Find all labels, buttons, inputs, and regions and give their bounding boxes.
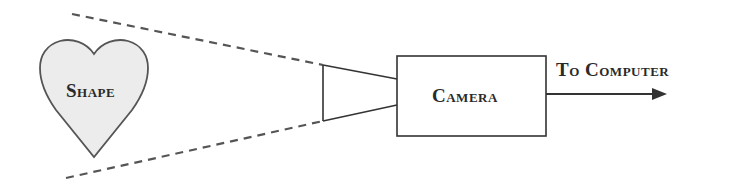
lens-top-edge (323, 65, 397, 79)
to-computer-label: To Computer (556, 60, 669, 79)
camera-label: Camera (432, 86, 498, 105)
shape-label: Shape (66, 81, 115, 100)
lens-bottom-edge (323, 105, 397, 121)
arrow-head-icon (652, 88, 667, 100)
